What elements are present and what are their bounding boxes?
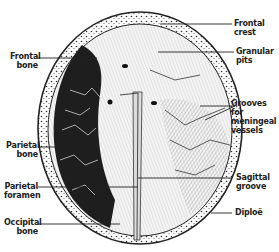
label-diploe: Diploë [235, 208, 263, 217]
label-grooves-meningeal-vessels: Grooves for meningeal vessels [231, 99, 279, 135]
label-granular-pits: Granular pits [236, 47, 274, 65]
skull-diagram: Frontal bone Parietal bone Parietal fora… [0, 0, 279, 252]
granular-pit [122, 64, 128, 68]
label-sagittal-groove: Sagittal groove [236, 173, 270, 191]
label-parietal-foramen: Parietal foramen [4, 182, 38, 200]
granular-pit [108, 100, 113, 105]
label-frontal-bone: Frontal bone [10, 52, 38, 70]
granular-pit [151, 101, 157, 105]
label-occipital-bone: Occipital bone [4, 218, 38, 236]
label-parietal-bone: Parietal bone [6, 141, 38, 159]
label-frontal-crest: Frontal crest [234, 19, 265, 37]
